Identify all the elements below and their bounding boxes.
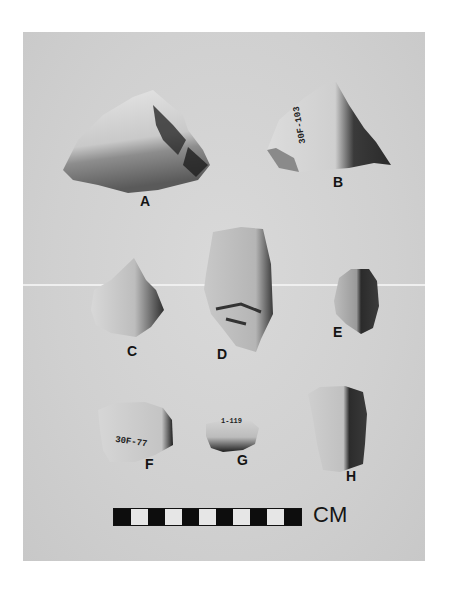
scale-bar <box>113 508 302 526</box>
artifact-label-b: B <box>333 175 343 189</box>
artifact-label-a: A <box>140 194 150 208</box>
scale-segment <box>165 509 182 525</box>
artifact-label-d: D <box>217 347 227 361</box>
artifact-label-e: E <box>333 325 342 339</box>
scale-segment <box>250 509 267 525</box>
artifact-label-h: H <box>346 469 356 483</box>
artifact-c <box>86 255 166 340</box>
scale-segment <box>148 509 165 525</box>
scale-segment <box>216 509 233 525</box>
artifact-a <box>58 85 213 195</box>
scale-segment <box>284 509 301 525</box>
scale-unit-label: CM <box>313 504 347 526</box>
artifact-f <box>95 400 175 465</box>
scale-segment <box>182 509 199 525</box>
scale-segment <box>233 509 250 525</box>
artifact-h <box>305 384 370 474</box>
scale-segment <box>131 509 148 525</box>
artifact-b <box>264 80 394 175</box>
catalog-number-g: 1-119 <box>221 417 242 425</box>
artifact-photograph: A 30F-103 B C D <box>23 32 425 561</box>
artifact-d <box>201 224 276 354</box>
artifact-label-f: F <box>145 457 154 471</box>
scale-segment <box>199 509 216 525</box>
artifact-label-c: C <box>127 344 137 358</box>
artifact-label-g: G <box>237 453 248 467</box>
scale-segment <box>267 509 284 525</box>
scale-segment <box>114 509 131 525</box>
